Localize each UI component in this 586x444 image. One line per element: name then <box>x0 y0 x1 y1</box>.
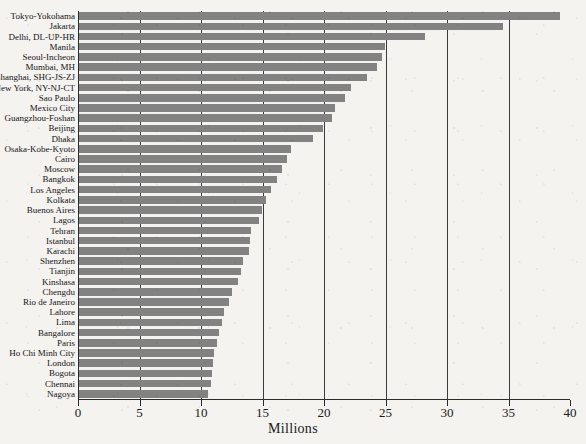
bar <box>79 155 287 163</box>
bar-row: Rio de Janeiro <box>0 297 586 307</box>
bar <box>79 257 243 265</box>
bar-row: Delhi, DL-UP-HR <box>0 31 586 41</box>
bar <box>79 165 282 173</box>
bar <box>79 380 211 388</box>
category-label: Bogota <box>49 368 75 378</box>
bar <box>79 390 208 398</box>
bar-row: Beijing <box>0 123 586 133</box>
category-label: Sao Paulo <box>39 93 75 103</box>
bar <box>79 206 262 214</box>
category-label: Chennai <box>45 379 75 389</box>
bar-row: Chengdu <box>0 287 586 297</box>
bar-row: Manila <box>0 42 586 52</box>
bar <box>79 247 249 255</box>
bar <box>79 84 351 92</box>
category-label: Buenos Aires <box>27 205 75 215</box>
bar-row: Ho Chi Minh City <box>0 348 586 358</box>
category-label: Kinshasa <box>42 277 75 287</box>
category-label: Shanghai, SHG-JS-ZJ <box>0 72 75 82</box>
bar-row: Guangzhou-Foshan <box>0 113 586 123</box>
x-tick-label-40: 40 <box>550 405 586 421</box>
bar <box>79 63 377 71</box>
category-label: Jakarta <box>50 21 75 31</box>
bar-row: Bangalore <box>0 328 586 338</box>
category-label: Osaka-Kobe-Kyoto <box>5 144 75 154</box>
category-label: Bangalore <box>38 328 75 338</box>
bar-row: Moscow <box>0 164 586 174</box>
x-tick-label-35: 35 <box>489 405 529 421</box>
bar <box>79 339 217 347</box>
bar <box>79 237 250 245</box>
bar-row: Paris <box>0 338 586 348</box>
bar <box>79 278 238 286</box>
category-label: Paris <box>57 338 75 348</box>
category-label: Beijing <box>49 123 76 133</box>
x-tick-label-5: 5 <box>120 405 160 421</box>
bar-row: Bangkok <box>0 174 586 184</box>
category-label: Ho Chi Minh City <box>9 348 75 358</box>
bar <box>79 359 213 367</box>
x-tick-label-0: 0 <box>58 405 98 421</box>
bar-row: Sao Paulo <box>0 93 586 103</box>
category-label: Chengdu <box>43 287 76 297</box>
bar <box>79 176 277 184</box>
bar-row: Tokyo-Yokohama <box>0 11 586 21</box>
category-label: Karachi <box>47 246 75 256</box>
category-label: Mexico City <box>30 103 75 113</box>
bar-row: Cairo <box>0 154 586 164</box>
bar <box>79 298 229 306</box>
bar <box>79 308 224 316</box>
bar-row: Kinshasa <box>0 276 586 286</box>
bar-row: Shenzhen <box>0 256 586 266</box>
bar <box>79 104 335 112</box>
bar <box>79 227 251 235</box>
bar-row: Bogota <box>0 368 586 378</box>
x-axis-label: Millions <box>0 421 586 437</box>
bar-row: Kolkata <box>0 195 586 205</box>
bar-row: Nagoya <box>0 389 586 399</box>
bar-row: Lagos <box>0 215 586 225</box>
bar-row: Lahore <box>0 307 586 317</box>
bar <box>79 33 425 41</box>
category-label: Tehran <box>50 226 75 236</box>
category-label: Los Angeles <box>30 185 75 195</box>
x-tick-label-25: 25 <box>366 405 406 421</box>
category-label: Guangzhou-Foshan <box>5 113 76 123</box>
bar-row: Istanbul <box>0 236 586 246</box>
bar <box>79 288 232 296</box>
x-tick-label-15: 15 <box>243 405 283 421</box>
bar-row: London <box>0 358 586 368</box>
category-label: Tokyo-Yokohama <box>11 11 75 21</box>
population-bar-chart: 0510152025303540 Tokyo-YokohamaJakartaDe… <box>0 0 586 444</box>
category-label: Dhaka <box>52 134 76 144</box>
x-tick-label-30: 30 <box>427 405 467 421</box>
category-label: Lima <box>56 317 75 327</box>
category-label: Seoul-Incheon <box>23 52 75 62</box>
category-label: Moscow <box>44 164 75 174</box>
bar-row: Lima <box>0 317 586 327</box>
bar-row: Karachi <box>0 246 586 256</box>
category-label: Manila <box>50 42 76 52</box>
bar <box>79 94 345 102</box>
bar-row: New York, NY-NJ-CT <box>0 82 586 92</box>
x-tick-label-10: 10 <box>181 405 221 421</box>
bar <box>79 349 214 357</box>
bar <box>79 217 259 225</box>
bar-row: Jakarta <box>0 21 586 31</box>
bar-row: Mumbai, MH <box>0 62 586 72</box>
bar <box>79 329 219 337</box>
category-label: Tianjin <box>49 266 75 276</box>
bar <box>79 145 291 153</box>
category-label: Cairo <box>55 154 75 164</box>
bar <box>79 319 222 327</box>
bar-row: Tehran <box>0 225 586 235</box>
category-label: London <box>47 358 75 368</box>
bar <box>79 114 332 122</box>
bar-row: Dhaka <box>0 134 586 144</box>
bar <box>79 43 385 51</box>
category-label: Kolkata <box>47 195 76 205</box>
bar-row: Seoul-Incheon <box>0 52 586 62</box>
bar-row: Shanghai, SHG-JS-ZJ <box>0 72 586 82</box>
category-label: Lagos <box>53 215 75 225</box>
bar <box>79 125 323 133</box>
